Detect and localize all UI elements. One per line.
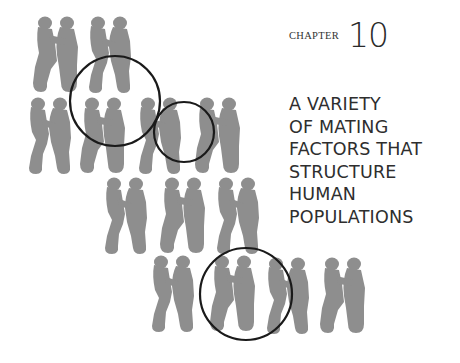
chapter-number: 10 <box>348 19 388 52</box>
chapter-label: CHAPTER <box>289 30 339 41</box>
title-line-5: HUMAN <box>289 183 422 206</box>
figure-row-1 <box>33 17 131 94</box>
title-line-2: OF MATING <box>289 116 422 139</box>
title-line-6: POPULATIONS <box>289 206 422 229</box>
title-line-4: STRUCTURE <box>289 161 422 184</box>
figure-row-4 <box>152 256 365 335</box>
figure-row-3 <box>105 178 259 255</box>
title-line-1: A VARIETY <box>289 93 422 116</box>
figure-row-2 <box>29 98 240 175</box>
title-line-3: FACTORS THAT <box>289 138 422 161</box>
chapter-title: A VARIETY OF MATING FACTORS THAT STRUCTU… <box>289 93 422 229</box>
